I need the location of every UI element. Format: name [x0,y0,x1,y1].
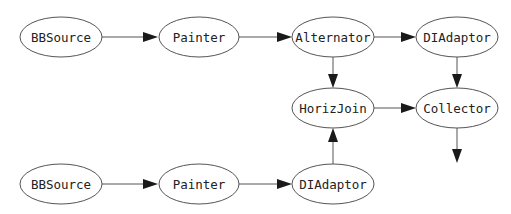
node-label: HorizJoin [299,101,367,116]
arrowhead-icon [452,149,462,163]
arrowhead-icon [452,74,462,88]
nodes: BBSource Painter Alternator DIAdaptor Ho… [20,17,498,204]
arrowhead-icon [277,32,292,42]
edge-collector-output [452,128,462,163]
edges [102,32,462,189]
edge-diadaptor1-collector [452,57,462,88]
edge-diadaptor2-horizjoin [328,128,338,164]
arrowhead-icon [143,179,158,189]
node-painter-top: Painter [159,17,239,57]
node-horizjoin: HorizJoin [292,88,374,128]
node-painter-bottom: Painter [159,164,239,204]
arrowhead-icon [143,32,158,42]
node-label: Collector [423,101,491,116]
node-bbsource-top: BBSource [20,17,102,57]
edge-painter2-diadaptor2 [239,179,292,189]
node-diadaptor-bottom: DIAdaptor [292,164,374,204]
edge-bbsource1-painter1 [102,32,158,42]
node-alternator: Alternator [292,17,374,57]
node-collector: Collector [416,88,498,128]
node-diadaptor-top: DIAdaptor [416,17,498,57]
edge-alternator-diadaptor1 [374,32,416,42]
node-label: DIAdaptor [299,177,367,192]
node-label: DIAdaptor [423,30,491,45]
arrowhead-icon [277,179,292,189]
node-label: Alternator [295,30,371,45]
node-bbsource-bottom: BBSource [20,164,102,204]
node-label: Painter [173,177,226,192]
pipeline-diagram: BBSource Painter Alternator DIAdaptor Ho… [0,0,511,214]
edge-painter1-alternator [239,32,292,42]
edge-horizjoin-collector [374,103,416,113]
edge-alternator-horizjoin [328,57,338,88]
arrowhead-icon [401,32,416,42]
arrowhead-icon [328,74,338,88]
node-label: Painter [173,30,226,45]
node-label: BBSource [31,30,91,45]
edge-bbsource2-painter2 [102,179,158,189]
node-label: BBSource [31,177,91,192]
arrowhead-icon [401,103,416,113]
arrowhead-icon [328,128,338,142]
